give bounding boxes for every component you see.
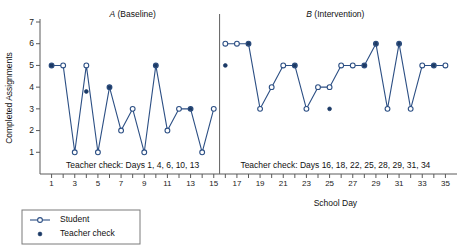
data-point-teacher-check (432, 64, 436, 68)
data-point-student (165, 128, 170, 133)
data-point-student (408, 106, 413, 111)
data-point-student (258, 106, 263, 111)
data-point-student (420, 63, 425, 68)
legend-marker-filled-dot (38, 232, 42, 236)
legend-label-teacher-check: Teacher check (60, 228, 116, 238)
x-axis-tick-label: 13 (186, 179, 195, 188)
x-axis-tick-label: 35 (441, 179, 450, 188)
y-axis-tick-label: 7 (29, 17, 34, 27)
x-axis-tick-label: 5 (96, 179, 101, 188)
data-point-student (235, 41, 240, 46)
data-point-teacher-check (293, 64, 297, 68)
data-point-student (119, 128, 124, 133)
data-point-student (61, 63, 66, 68)
data-point-student (130, 106, 135, 111)
data-point-student (142, 150, 147, 155)
legend-marker-open-circle (38, 218, 43, 223)
data-point-teacher-check (223, 64, 227, 68)
data-point-student (443, 63, 448, 68)
x-axis-tick-label: 23 (302, 179, 311, 188)
data-point-student (72, 150, 77, 155)
data-point-student (385, 106, 390, 111)
annotation-teacher-check-a: Teacher check: Days 1, 4, 6, 10, 13 (66, 160, 200, 170)
data-point-student (316, 85, 321, 90)
data-point-student (269, 85, 274, 90)
x-axis-tick-label: 7 (119, 179, 124, 188)
x-axis-tick-label: 19 (256, 179, 265, 188)
y-axis-tick-label: 1 (29, 147, 34, 157)
data-point-student (177, 106, 182, 111)
data-point-teacher-check (247, 42, 251, 46)
data-point-teacher-check (397, 42, 401, 46)
data-point-teacher-check (362, 64, 366, 68)
data-point-teacher-check (154, 64, 158, 68)
data-point-student (350, 63, 355, 68)
x-axis-tick-label: 27 (348, 179, 357, 188)
data-point-student (200, 150, 205, 155)
x-axis-tick-label: 9 (142, 179, 147, 188)
data-point-student (223, 41, 228, 46)
data-point-student (84, 63, 89, 68)
data-point-teacher-check (108, 85, 112, 89)
x-axis-tick-label: 21 (279, 179, 288, 188)
data-point-student (96, 150, 101, 155)
data-point-student (327, 85, 332, 90)
data-point-teacher-check (50, 64, 54, 68)
phase-title-a: A (Baseline) (109, 9, 156, 19)
y-axis-tick-label: 5 (29, 60, 34, 70)
x-axis-tick-label: 33 (418, 179, 427, 188)
data-point-teacher-check (189, 107, 193, 111)
data-point-teacher-check (374, 42, 378, 46)
x-axis-tick-label: 11 (163, 179, 172, 188)
x-axis-tick-label: 3 (73, 179, 78, 188)
x-axis-tick-label: 31 (395, 179, 404, 188)
annotation-teacher-check-b: Teacher check: Days 16, 18, 22, 25, 28, … (240, 160, 430, 170)
legend-label-student: Student (60, 214, 90, 224)
x-axis-title: School Day (314, 198, 358, 208)
phase-title-b: B (Intervention) (306, 9, 364, 19)
data-point-student (339, 63, 344, 68)
x-axis-tick-label: 1 (49, 179, 54, 188)
data-line-student-phase-b (225, 44, 445, 109)
data-point-student (211, 106, 216, 111)
data-point-student (304, 106, 309, 111)
y-axis-title: Completed Assignments (4, 52, 14, 144)
x-axis-tick-label: 15 (209, 179, 218, 188)
x-axis-tick-label: 25 (325, 179, 334, 188)
chart-canvas: 12345671357911131517192123252729313335Sc… (0, 0, 464, 250)
y-axis-tick-label: 2 (29, 125, 34, 135)
y-axis-tick-label: 6 (29, 38, 34, 48)
data-point-student (281, 63, 286, 68)
x-axis-tick-label: 29 (371, 179, 380, 188)
x-axis-tick-label: 17 (232, 179, 241, 188)
data-point-teacher-check (84, 90, 88, 94)
completed-assignments-chart: 12345671357911131517192123252729313335Sc… (0, 0, 464, 250)
y-axis-tick-label: 3 (29, 104, 34, 114)
y-axis-tick-label: 4 (29, 82, 34, 92)
data-point-teacher-check (328, 107, 332, 111)
